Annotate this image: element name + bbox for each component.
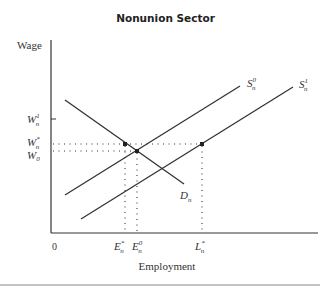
- point-ln-star: [200, 142, 204, 146]
- point-equilibrium: [135, 149, 139, 153]
- x-tick-ln-star: L*n: [194, 239, 205, 255]
- s0-label: S0n: [247, 76, 257, 92]
- y-axis-label: Wage: [17, 39, 42, 51]
- x-tick-en0: E0n: [131, 239, 143, 255]
- dn-label: Dn: [179, 189, 192, 204]
- s1-label: S1n: [299, 77, 308, 93]
- x-axis-label: Employment: [139, 260, 196, 272]
- supply-curve-s0: [65, 86, 240, 195]
- origin-label: 0: [52, 241, 57, 252]
- x-tick-en-star: E*n: [113, 239, 125, 255]
- y-tick-wn1: W1n: [27, 112, 40, 128]
- y-tick-w0: W0: [27, 149, 40, 163]
- point-en-star: [123, 142, 127, 146]
- chart-canvas: Wage Employment 0 S0n S1n Dn W1n W*n W0 …: [0, 0, 331, 287]
